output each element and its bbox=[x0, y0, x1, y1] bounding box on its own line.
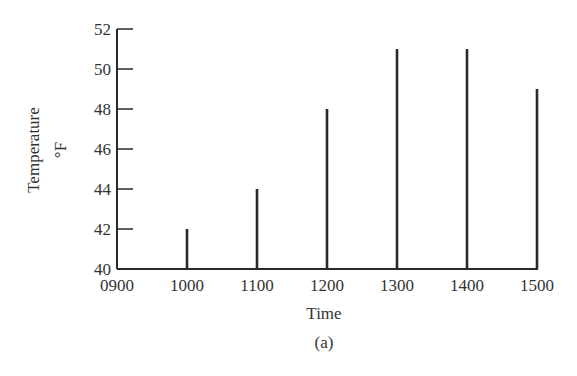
x-axis: 0900100011001200130014001500 bbox=[100, 269, 554, 295]
x-tick-label: 0900 bbox=[100, 276, 134, 295]
figure-caption: (a) bbox=[315, 333, 334, 352]
y-axis-title: Temperature bbox=[24, 107, 43, 193]
bars-group bbox=[187, 49, 537, 269]
y-tick-label: 50 bbox=[94, 60, 111, 79]
x-axis-title: Time bbox=[306, 304, 341, 323]
y-axis: 40424446485052 bbox=[94, 20, 133, 279]
y-tick-label: 52 bbox=[94, 20, 111, 39]
x-tick-label: 1400 bbox=[450, 276, 484, 295]
x-tick-label: 1000 bbox=[170, 276, 204, 295]
y-axis-unit: °F bbox=[51, 142, 70, 158]
x-tick-label: 1300 bbox=[380, 276, 414, 295]
y-tick-label: 42 bbox=[94, 220, 111, 239]
temperature-chart: 40424446485052 0900100011001200130014001… bbox=[0, 0, 577, 376]
x-tick-label: 1100 bbox=[240, 276, 273, 295]
x-tick-label: 1200 bbox=[310, 276, 344, 295]
y-tick-label: 48 bbox=[94, 100, 111, 119]
y-tick-label: 46 bbox=[94, 140, 111, 159]
x-tick-label: 1500 bbox=[520, 276, 554, 295]
y-tick-label: 44 bbox=[94, 180, 112, 199]
